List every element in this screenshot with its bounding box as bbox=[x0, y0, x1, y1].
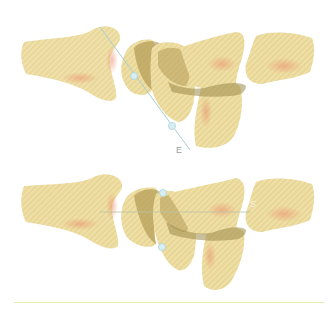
marker-top-1 bbox=[131, 73, 138, 80]
bone-metacarpal-top bbox=[246, 32, 315, 84]
label-extension: E bbox=[176, 145, 182, 155]
wrist-bone-diagram: E S bbox=[0, 0, 332, 317]
bone-radius-top bbox=[21, 26, 120, 101]
marker-top-2 bbox=[169, 123, 176, 130]
panel-top bbox=[21, 26, 314, 150]
diagram-svg bbox=[0, 0, 332, 317]
marker-bottom-1 bbox=[160, 190, 167, 197]
panel-bottom bbox=[21, 174, 314, 290]
label-s: S bbox=[250, 199, 256, 209]
marker-bottom-2 bbox=[159, 244, 166, 251]
bottom-rule bbox=[14, 302, 324, 303]
